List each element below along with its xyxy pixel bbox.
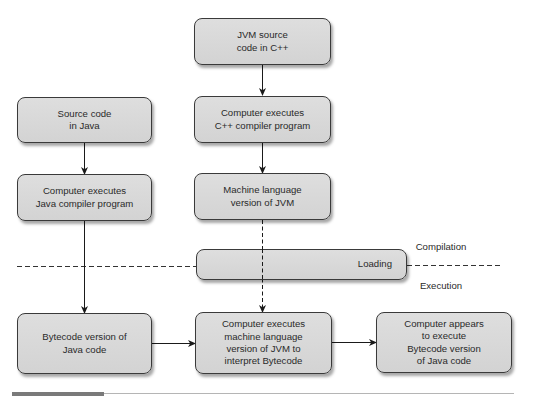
node-java-source-label: Source code in Java (58, 108, 112, 133)
node-loading-label: Loading (358, 258, 392, 270)
node-bytecode: Bytecode version of Java code (17, 313, 152, 374)
phase-label-compilation: Compilation (401, 241, 481, 252)
footer-rule-line (104, 393, 514, 394)
node-appears: Computer appears to execute Bytecode ver… (376, 312, 512, 373)
node-appears-label: Computer appears to execute Bytecode ver… (404, 318, 483, 368)
node-cpp-compiler-label: Computer executes C++ compiler program (215, 107, 310, 132)
node-interpret: Computer executes machine language versi… (195, 312, 332, 374)
node-machine-jvm-label: Machine language version of JVM (223, 184, 301, 209)
node-java-compiler: Computer executes Java compiler program (17, 174, 152, 221)
phase-label-execution: Execution (401, 280, 481, 291)
node-java-compiler-label: Computer executes Java compiler program (36, 185, 134, 210)
node-bytecode-label: Bytecode version of Java code (42, 331, 126, 356)
node-jvm-source-label: JVM source code in C++ (237, 29, 289, 54)
node-machine-jvm: Machine language version of JVM (194, 173, 331, 220)
node-java-source: Source code in Java (17, 97, 152, 143)
node-loading: Loading (196, 249, 407, 280)
node-jvm-source: JVM source code in C++ (194, 18, 331, 65)
node-interpret-label: Computer executes machine language versi… (222, 318, 305, 368)
node-cpp-compiler: Computer executes C++ compiler program (194, 96, 331, 143)
flowchart-canvas: Loading JVM source code in C++ Computer … (0, 0, 535, 401)
footer-rule-accent (12, 392, 104, 396)
